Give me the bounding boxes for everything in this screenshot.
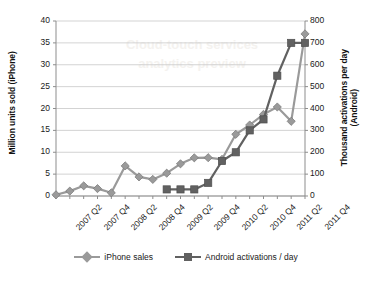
data-point-marker (52, 191, 60, 199)
legend-square-icon (184, 253, 192, 261)
data-point-marker (80, 182, 88, 190)
chart-container: Million units sold (iPhone) Thousand act… (0, 0, 372, 284)
data-point-marker (190, 154, 198, 162)
legend-swatch (175, 252, 201, 262)
data-point-marker (301, 30, 309, 38)
data-point-marker (288, 39, 295, 46)
data-point-marker (177, 186, 184, 193)
data-point-marker (163, 186, 170, 193)
legend-diamond-icon (82, 251, 93, 262)
plot-area (0, 0, 372, 284)
data-point-marker (149, 175, 157, 183)
legend-item[interactable]: Android activations / day (175, 252, 298, 262)
data-point-marker (204, 154, 212, 162)
data-point-marker (191, 186, 198, 193)
data-point-marker (205, 179, 212, 186)
legend-label: Android activations / day (205, 252, 298, 262)
data-point-marker (232, 149, 239, 156)
data-point-marker (218, 157, 225, 164)
data-point-marker (246, 127, 253, 134)
data-point-marker (260, 116, 267, 123)
data-point-marker (301, 39, 308, 46)
legend-item[interactable]: iPhone sales (74, 252, 153, 262)
chart-legend: iPhone salesAndroid activations / day (0, 252, 372, 262)
legend-swatch (74, 252, 100, 262)
data-point-marker (66, 187, 74, 195)
legend-label: iPhone sales (104, 252, 153, 262)
data-point-marker (274, 72, 281, 79)
data-point-marker (93, 185, 101, 193)
